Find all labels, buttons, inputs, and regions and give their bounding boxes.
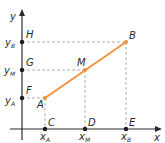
label-a: A: [36, 99, 44, 110]
point-m: [83, 68, 87, 72]
label-c: C: [48, 117, 55, 128]
label-g: G: [26, 57, 34, 68]
midpoint-diagram: y x B M A H G F C D E yB yM yA xA xM xB: [0, 0, 165, 143]
x-tick-b: xB: [120, 131, 131, 143]
label-h: H: [26, 29, 34, 40]
label-d: D: [88, 117, 96, 128]
point-f: [20, 96, 24, 100]
label-f: F: [26, 85, 32, 96]
point-h: [20, 40, 24, 44]
y-axis-arrow-icon: [19, 9, 25, 16]
point-b: [124, 40, 128, 44]
label-b: B: [129, 30, 136, 41]
y-tick-b: yB: [4, 37, 15, 49]
y-tick-a: yA: [4, 95, 15, 107]
dashed-guides: [22, 42, 126, 129]
axis-points: [20, 40, 128, 131]
x-axis-label: x: [153, 132, 160, 143]
x-tick-m: xM: [78, 131, 91, 143]
x-tick-a: xA: [39, 131, 50, 143]
point-g: [20, 68, 24, 72]
label-m: M: [77, 57, 86, 68]
y-axis-label: y: [9, 11, 17, 22]
y-tick-m: yM: [3, 65, 16, 77]
label-e: E: [129, 117, 136, 128]
